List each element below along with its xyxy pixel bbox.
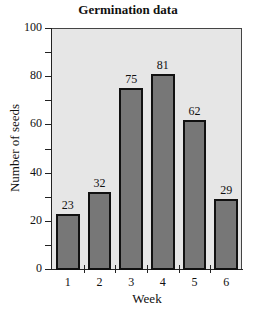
bar: [214, 199, 238, 270]
y-tick: [45, 124, 52, 125]
y-tick: [45, 269, 52, 270]
bar: [56, 214, 80, 270]
x-tick: [179, 265, 180, 273]
bar: [183, 120, 207, 270]
x-tick-label: 1: [58, 275, 78, 290]
y-tick: [45, 197, 52, 198]
x-tick-label: 6: [216, 275, 236, 290]
value-label: 23: [53, 198, 83, 213]
x-tick-label: 2: [90, 275, 110, 290]
x-tick: [147, 265, 148, 273]
y-tick: [45, 173, 52, 174]
y-tick: [45, 245, 52, 246]
x-tick-label: 4: [153, 275, 173, 290]
value-label: 62: [180, 104, 210, 119]
y-tick-label: 20: [2, 213, 42, 228]
y-tick-label: 100: [2, 20, 42, 35]
y-axis-title: Number of seeds: [7, 93, 23, 203]
x-tick: [115, 265, 116, 273]
chart-title: Germination data: [0, 2, 256, 18]
value-label: 81: [148, 58, 178, 73]
y-tick: [45, 100, 52, 101]
x-tick-label: 3: [121, 275, 141, 290]
bar: [151, 74, 175, 270]
y-tick: [45, 76, 52, 77]
y-tick: [45, 221, 52, 222]
y-tick-label: 80: [2, 68, 42, 83]
value-label: 32: [85, 176, 115, 191]
x-tick-label: 5: [185, 275, 205, 290]
x-axis-title: Week: [52, 291, 242, 307]
x-tick: [210, 265, 211, 273]
value-label: 75: [116, 72, 146, 87]
y-tick: [45, 149, 52, 150]
value-label: 29: [211, 183, 241, 198]
bar: [119, 88, 143, 270]
x-tick: [84, 265, 85, 273]
y-tick: [45, 28, 52, 29]
y-tick-label: 0: [2, 261, 42, 276]
bar: [88, 192, 112, 270]
y-tick: [45, 52, 52, 53]
